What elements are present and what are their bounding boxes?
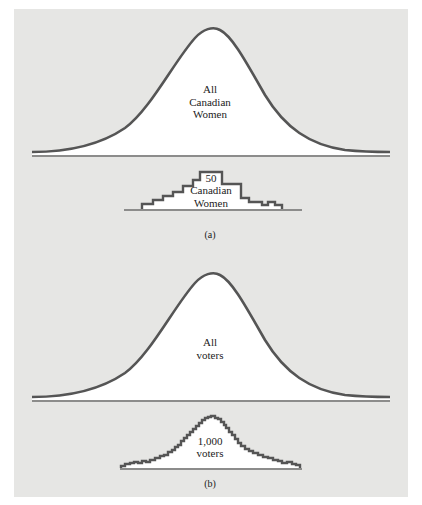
population-label-b-line-1: All bbox=[165, 336, 255, 349]
sample-label-a-line-3: Women bbox=[176, 197, 246, 209]
population-label-a-line-3: Women bbox=[165, 108, 255, 121]
sample-label-b-line-2: voters bbox=[175, 447, 245, 459]
population-label-a: All Canadian Women bbox=[165, 83, 255, 121]
sample-label-a-line-2: Canadian bbox=[176, 184, 246, 196]
population-label-a-line-1: All bbox=[165, 83, 255, 96]
sample-label-a-line-1: 50 bbox=[176, 172, 246, 184]
part-label-b: (b) bbox=[190, 478, 230, 490]
part-label-a: (a) bbox=[190, 229, 230, 241]
sample-label-b-line-1: 1,000 bbox=[175, 435, 245, 447]
sample-label-b: 1,000 voters bbox=[175, 435, 245, 460]
distribution-figure bbox=[0, 0, 422, 505]
population-label-b-line-2: voters bbox=[165, 349, 255, 362]
population-label-b: All voters bbox=[165, 336, 255, 361]
sample-label-a: 50 Canadian Women bbox=[176, 172, 246, 209]
population-label-a-line-2: Canadian bbox=[165, 96, 255, 109]
